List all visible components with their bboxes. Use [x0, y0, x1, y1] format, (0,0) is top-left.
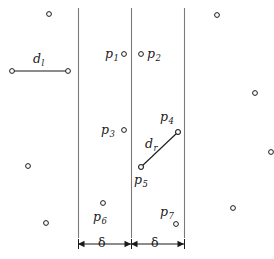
point-label-p2: p2 — [147, 48, 161, 61]
delta-right-arrowhead-right — [178, 241, 185, 247]
distance-label-dl: dl — [33, 53, 44, 66]
scatter-point-7 — [231, 206, 236, 211]
delta-measure-bar — [78, 239, 185, 249]
distance-segments — [10, 69, 181, 170]
point-label-p7: p7 — [160, 206, 174, 219]
delta-label-right: δ — [151, 237, 159, 250]
point-marker-p3 — [122, 128, 127, 133]
point-label-p4: p4 — [160, 111, 174, 124]
point-marker-p7 — [174, 222, 179, 227]
labeled-point-markers — [101, 52, 181, 227]
scatter-point-1 — [47, 12, 52, 17]
point-marker-p2 — [139, 52, 144, 57]
point-label-p5: p5 — [134, 174, 148, 187]
point-label-p3: p3 — [101, 124, 115, 137]
scatter-point-4 — [215, 13, 220, 18]
diagram-canvas — [0, 0, 274, 259]
point-marker-p4 — [176, 130, 181, 135]
closest-pair-strip-diagram: p1p2p3p4p5p6p7dldrδδ — [0, 0, 274, 259]
segment-dl-endpoint-b — [66, 69, 71, 74]
point-marker-p6 — [101, 201, 106, 206]
scatter-point-6 — [269, 150, 274, 155]
delta-left-arrowhead-right — [125, 241, 132, 247]
distance-label-dr: dr — [145, 138, 157, 151]
segment-dl-endpoint-a — [10, 69, 15, 74]
point-label-p6: p6 — [93, 211, 107, 224]
delta-label-left: δ — [98, 237, 106, 250]
scatter-point-2 — [26, 164, 31, 169]
scatter-point-3 — [44, 221, 49, 226]
point-label-p1: p1 — [105, 48, 119, 61]
point-marker-p5 — [139, 165, 144, 170]
point-marker-p1 — [122, 52, 127, 57]
scatter-points — [26, 12, 274, 226]
scatter-point-5 — [253, 91, 258, 96]
